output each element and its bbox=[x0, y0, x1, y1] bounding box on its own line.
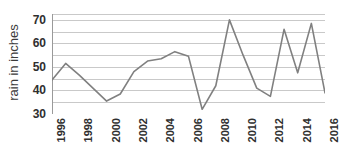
y-axis-tick-label: 70 bbox=[24, 14, 46, 26]
x-axis-tick-label: 2012 bbox=[274, 118, 285, 142]
x-axis-tick-label: 2014 bbox=[302, 118, 313, 142]
y-axis-tick-label: 40 bbox=[24, 84, 46, 96]
y-axis-tick-label: 50 bbox=[24, 61, 46, 73]
plot-svg bbox=[52, 14, 325, 114]
x-axis-tick-labels: 1996199820002002200420062008201020122014… bbox=[52, 114, 325, 160]
data-series-line bbox=[52, 20, 325, 109]
y-axis-title-text: rain in inches bbox=[6, 24, 21, 101]
x-axis-tick-label: 2004 bbox=[165, 118, 176, 142]
x-axis-tick-label: 2008 bbox=[220, 118, 231, 142]
y-axis-tick-label: 60 bbox=[24, 37, 46, 49]
x-axis-tick-label: 2002 bbox=[138, 118, 149, 142]
x-axis-tick-label: 1996 bbox=[56, 118, 67, 142]
x-axis-tick-label: 2016 bbox=[329, 118, 340, 142]
x-axis-tick-label: 1998 bbox=[83, 118, 94, 142]
y-axis-tick-labels: 3040506070 bbox=[24, 0, 46, 160]
x-axis-tick-label: 2010 bbox=[247, 118, 258, 142]
x-axis-tick-label: 2000 bbox=[111, 118, 122, 142]
plot-area bbox=[52, 14, 325, 114]
y-axis-tick-label: 30 bbox=[24, 108, 46, 120]
y-axis-title: rain in inches bbox=[0, 0, 26, 125]
x-axis-tick-label: 2006 bbox=[193, 118, 204, 142]
